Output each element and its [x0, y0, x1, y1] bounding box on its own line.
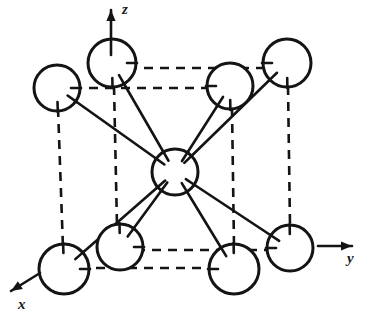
axis-label-x: x: [17, 296, 26, 312]
edge-vertical-back-left: [114, 86, 117, 226]
axis-label-z: z: [121, 1, 128, 17]
axis-arrowhead-z: [106, 10, 115, 21]
edge-vertical-front-right: [232, 108, 234, 246]
bcc-unit-cell-figure: z y x: [0, 0, 367, 317]
edge-vertical-back-right: [288, 86, 290, 226]
axis-label-y: y: [345, 250, 354, 266]
edge-vertical-front-left: [58, 108, 63, 248]
lattice-canvas: z y x: [0, 0, 367, 317]
